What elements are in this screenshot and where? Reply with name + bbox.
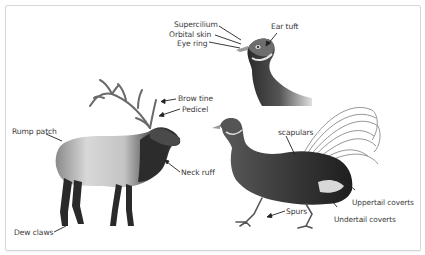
- label-rump-patch: Rump patch: [12, 127, 57, 136]
- label-brow-tine: Brow tine: [178, 94, 213, 103]
- label-pedicel: Pedicel: [182, 105, 208, 114]
- label-undertail-coverts: Undertail coverts: [334, 215, 396, 224]
- label-neck-ruff: Neck ruff: [181, 168, 215, 177]
- label-spurs: Spurs: [286, 207, 307, 216]
- pheasant-head-illustration: [236, 38, 312, 106]
- label-supercilium: Supercilium: [174, 20, 218, 29]
- label-ear-tuft: Ear tuft: [271, 22, 299, 31]
- label-dew-claws: Dew claws: [14, 228, 53, 237]
- label-eye-ring: Eye ring: [177, 39, 207, 48]
- label-scapulars: scapulars: [278, 128, 313, 137]
- label-uppertail-coverts: Uppertail coverts: [352, 198, 414, 207]
- label-orbital-skin: Orbital skin: [169, 30, 211, 39]
